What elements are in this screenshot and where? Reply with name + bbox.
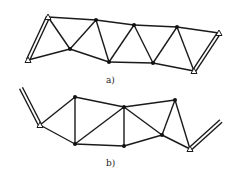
panel-label-b: b)	[106, 158, 115, 168]
truss-member	[70, 20, 96, 49]
truss-member	[75, 97, 124, 107]
support-rail	[189, 120, 220, 148]
double-member	[195, 34, 220, 72]
truss-member	[48, 17, 70, 49]
support-rail	[22, 87, 41, 124]
truss-member	[75, 144, 124, 146]
truss-joint	[73, 142, 77, 146]
truss-member	[134, 25, 153, 63]
truss-member	[162, 100, 175, 135]
truss-member	[75, 107, 124, 144]
truss-panel-a: a)	[25, 14, 222, 85]
truss-panel-b: b)	[20, 87, 222, 168]
truss-member	[177, 27, 194, 71]
truss-member	[134, 25, 177, 27]
truss-member	[70, 49, 109, 62]
double-member	[29, 18, 49, 61]
truss-member	[40, 97, 75, 125]
double-member	[193, 32, 218, 70]
truss-joint	[73, 95, 77, 99]
truss-member	[175, 100, 190, 149]
truss-member	[153, 27, 177, 63]
truss-member	[96, 20, 109, 62]
truss-joint	[175, 25, 179, 29]
truss-member	[153, 63, 194, 71]
truss-member	[124, 135, 162, 146]
truss-joint	[122, 105, 126, 109]
truss-joint	[122, 144, 126, 148]
truss-joint	[107, 60, 111, 64]
truss-member	[177, 27, 219, 33]
support-rail	[191, 122, 222, 150]
truss-member	[40, 125, 75, 144]
truss-member	[109, 25, 134, 62]
truss-joint	[68, 47, 72, 51]
truss-member	[124, 107, 162, 135]
truss-joint	[132, 23, 136, 27]
truss-joint	[160, 133, 164, 137]
truss-member	[96, 20, 134, 25]
truss-joint	[151, 61, 155, 65]
truss-member	[109, 62, 153, 63]
double-member	[27, 16, 47, 59]
support-rail	[20, 89, 39, 126]
truss-diagram: a)b)	[0, 0, 235, 181]
panel-label-a: a)	[106, 75, 115, 85]
truss-joint	[173, 98, 177, 102]
truss-member	[124, 100, 175, 107]
truss-joint	[94, 18, 98, 22]
truss-member	[48, 17, 96, 20]
